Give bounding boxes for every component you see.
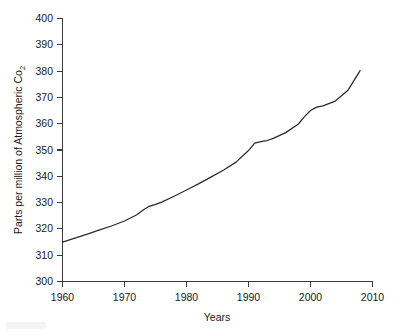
y-tick-label-370: 370 [35,91,53,103]
y-tick-label-300: 300 [35,275,53,287]
x-tick-label-1990: 1990 [237,291,261,303]
y-tick-label-380: 380 [35,65,53,77]
x-tick-label-1970: 1970 [113,291,137,303]
x-axis-tick-marks [63,282,373,288]
x-tick-label-1980: 1980 [175,291,199,303]
y-axis-title-main: Parts per million of Atmospheric Co [12,70,24,234]
y-axis-tick-marks [57,19,63,282]
y-tick-label-330: 330 [35,196,53,208]
y-tick-label-390: 390 [35,38,53,50]
co2-data-line [63,71,361,242]
y-tick-label-350: 350 [35,144,53,156]
y-tick-label-360: 360 [35,117,53,129]
y-tick-label-320: 320 [35,222,53,234]
x-tick-label-1960: 1960 [51,291,75,303]
x-axis-title: Years [204,311,230,323]
co2-line-chart-figure: 400 390 380 370 360 350 340 330 320 310 … [0,0,405,335]
y-tick-label-400: 400 [35,12,53,24]
chart-canvas: 400 390 380 370 360 350 340 330 320 310 … [0,0,405,335]
x-tick-label-2000: 2000 [299,291,323,303]
scan-artifact [6,322,46,329]
y-axis-title-text: Parts per million of Atmospheric Co2 [12,66,27,234]
y-tick-label-310: 310 [35,249,53,261]
y-tick-label-340: 340 [35,170,53,182]
y-axis-title: Parts per million of Atmospheric Co2 [12,66,27,234]
y-axis-title-subscript: 2 [18,66,27,70]
y-axis-tick-labels: 400 390 380 370 360 350 340 330 320 310 … [35,12,53,287]
x-axis-tick-labels: 1960 1970 1980 1990 2000 2010 [51,291,385,303]
x-tick-label-2010: 2010 [361,291,385,303]
